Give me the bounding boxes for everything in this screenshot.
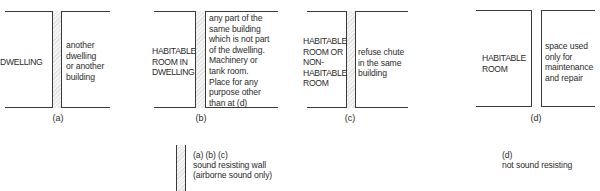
legend-line2: (airborne sound only) [193,170,272,181]
wall-line [541,10,595,11]
sound-resisting-wall [347,11,355,108]
left-room-label: DWELLING [0,57,43,68]
wall-line [61,11,110,12]
left-room-label: HABITABLE ROOM IN DWELLING [152,46,196,78]
wall-line [205,11,278,12]
legend-line1: not sound resisting [502,160,572,171]
legend-wall-swatch [177,145,185,191]
wall-line [307,107,346,108]
wall-line [355,11,408,12]
wall-line [61,11,62,108]
wall-line [205,11,206,108]
right-room-label: another dwelling or another building [66,40,104,82]
right-room-label: space used only for maintenance and repa… [545,41,593,83]
wall-line [61,107,110,108]
wall-line [476,106,531,107]
wall-line [52,11,53,108]
panel-caption: (a) [48,113,68,123]
legend-refs: (a) (b) (c) [193,150,228,161]
wall-line [355,107,408,108]
wall-line [476,10,531,11]
panel-caption: (d) [526,113,546,123]
wall-line [176,145,177,191]
left-room-label: HABITABLE ROOM [482,53,526,74]
sound-resisting-wall [196,11,205,108]
wall-line [531,10,532,107]
wall-line [541,10,542,107]
legend-line1: sound resisting wall [193,160,266,171]
right-room-label: refuse chute in the same building [358,47,404,79]
panel-caption: (c) [340,113,360,123]
legend-refs: (d) [502,150,512,161]
left-room-label: HABITABLE ROOM OR NON- HABITABLE ROOM [303,36,347,89]
wall-line [307,11,346,12]
wall-line [154,107,195,108]
wall-line [5,11,52,12]
panel-caption: (b) [191,113,211,123]
wall-line [5,107,52,108]
right-room-label: any part of the same building which is n… [209,13,269,108]
wall-line [355,11,356,108]
wall-line [185,145,186,191]
sound-resisting-wall [53,11,61,108]
wall-line [541,106,595,107]
wall-line [154,11,195,12]
